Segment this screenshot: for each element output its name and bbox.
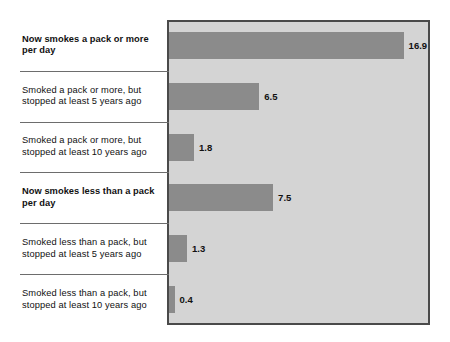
chart-row: Smoked a pack or more, but stopped at le… <box>0 71 450 122</box>
row-label: Smoked a pack or more, but stopped at le… <box>22 71 164 122</box>
row-label: Smoked a pack or more, but stopped at le… <box>22 122 164 173</box>
row-label-line-1: Smoked less than a pack, but <box>22 237 164 249</box>
row-label-line-2: stopped at least 5 years ago <box>22 249 164 261</box>
chart-row: Now smokes a pack or more per day 16.9 <box>0 20 450 71</box>
chart-row: Smoked a pack or more, but stopped at le… <box>0 122 450 173</box>
row-label-line-1: Now smokes a pack or more <box>22 34 164 46</box>
row-label-line-2: per day <box>22 45 164 57</box>
bar-value-label: 16.9 <box>409 40 428 51</box>
row-label: Now smokes a pack or more per day <box>22 20 164 71</box>
bar-value-label: 1.8 <box>199 142 212 153</box>
bar-value-label: 1.3 <box>192 243 205 254</box>
bar-group: 6.5 <box>169 71 277 122</box>
bar <box>169 32 404 59</box>
bar <box>169 235 187 262</box>
bar <box>169 184 273 211</box>
row-label: Smoked less than a pack, but stopped at … <box>22 274 164 325</box>
bar-chart: Now smokes a pack or more per day 16.9 S… <box>0 0 450 342</box>
row-label: Now smokes less than a pack per day <box>22 172 164 223</box>
chart-row: Smoked less than a pack, but stopped at … <box>0 223 450 274</box>
bar-value-label: 7.5 <box>278 192 291 203</box>
row-label-line-2: stopped at least 5 years ago <box>22 96 164 108</box>
bar-group: 1.3 <box>169 223 205 274</box>
bar <box>169 83 259 110</box>
row-label-line-2: per day <box>22 198 164 210</box>
chart-row: Now smokes less than a pack per day 7.5 <box>0 172 450 223</box>
row-label-line-1: Smoked a pack or more, but <box>22 135 164 147</box>
row-label-line-2: stopped at least 10 years ago <box>22 147 164 159</box>
bar-group: 0.4 <box>169 274 193 325</box>
bar-group: 16.9 <box>169 20 427 71</box>
row-label: Smoked less than a pack, but stopped at … <box>22 223 164 274</box>
bar <box>169 286 175 313</box>
row-label-line-1: Smoked a pack or more, but <box>22 85 164 97</box>
bar-value-label: 0.4 <box>180 294 193 305</box>
chart-row: Smoked less than a pack, but stopped at … <box>0 274 450 325</box>
bar-group: 1.8 <box>169 122 212 173</box>
chart-rows: Now smokes a pack or more per day 16.9 S… <box>0 20 450 325</box>
bar-group: 7.5 <box>169 172 291 223</box>
row-label-line-2: stopped at least 10 years ago <box>22 300 164 312</box>
row-label-line-1: Smoked less than a pack, but <box>22 288 164 300</box>
row-label-line-1: Now smokes less than a pack <box>22 186 164 198</box>
bar-value-label: 6.5 <box>264 91 277 102</box>
bar <box>169 134 194 161</box>
